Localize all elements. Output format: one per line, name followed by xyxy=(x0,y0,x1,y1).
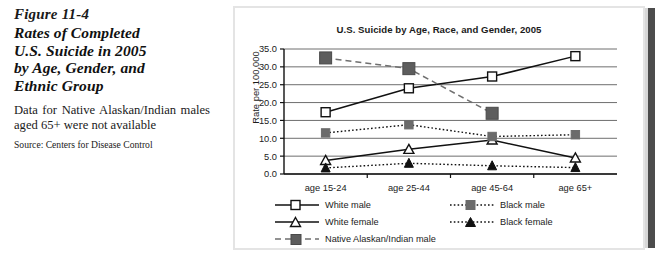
legend-swatch-white-female xyxy=(275,216,319,228)
legend-label-white-female: White female xyxy=(325,217,379,227)
data-point-marker xyxy=(405,121,413,129)
y-tick-label: 15.0 xyxy=(259,116,277,126)
figure-title-line-4: Ethnic Group xyxy=(14,77,210,95)
series-line xyxy=(326,56,576,112)
data-point-marker xyxy=(404,84,413,93)
data-point-marker xyxy=(488,72,497,81)
data-point-marker xyxy=(571,52,580,61)
y-tick-label: 35.0 xyxy=(259,44,277,54)
chart-legend: White male Black male White femal xyxy=(275,196,625,247)
legend-label-white-male: White male xyxy=(325,200,371,210)
x-tick-label: age 45-64 xyxy=(471,183,513,193)
legend-row-2: White female Black female xyxy=(275,213,625,230)
y-tick-label: 25.0 xyxy=(259,80,277,90)
data-point-marker xyxy=(486,107,498,119)
figure-page: Figure 11-4 Rates of Completed U.S. Suic… xyxy=(0,0,662,258)
data-point-marker xyxy=(571,163,580,172)
data-point-marker xyxy=(403,63,415,75)
data-point-marker xyxy=(571,131,579,139)
y-axis-ticks: 0.05.010.015.020.025.030.035.0 xyxy=(259,44,284,179)
x-axis-ticks: age 15-24age 25-44age 45-64age 65+ xyxy=(305,174,593,193)
x-tick-label: age 15-24 xyxy=(305,183,347,193)
series-lines xyxy=(326,56,576,168)
x-tick-label: age 25-44 xyxy=(388,183,430,193)
legend-item-white-male[interactable]: White male xyxy=(275,199,450,211)
data-point-marker xyxy=(321,108,330,117)
figure-title-line-3: by Age, Gender, and xyxy=(14,59,210,77)
legend-item-native-alaskan-indian-male[interactable]: Native Alaskan/Indian male xyxy=(275,233,436,245)
legend-swatch-native-alaskan-indian-male xyxy=(275,233,319,245)
data-point-marker xyxy=(321,129,329,137)
series-markers xyxy=(320,52,581,172)
y-tick-label: 30.0 xyxy=(259,62,277,72)
series-line xyxy=(326,125,576,137)
legend-swatch-black-male xyxy=(450,199,494,211)
figure-title-line-2: U.S. Suicide in 2005 xyxy=(14,42,210,60)
y-tick-label: 20.0 xyxy=(259,98,277,108)
figure-caption-block: Figure 11-4 Rates of Completed U.S. Suic… xyxy=(14,6,210,150)
legend-row-3: Native Alaskan/Indian male xyxy=(275,230,625,247)
figure-note: Data for Native Alaskan/Indian males age… xyxy=(14,103,210,134)
gridlines xyxy=(284,49,617,174)
figure-number: Figure 11-4 xyxy=(14,6,210,23)
series-line xyxy=(326,163,576,168)
figure-title: Rates of Completed U.S. Suicide in 2005 … xyxy=(14,24,210,94)
data-point-marker xyxy=(488,132,496,140)
legend-label-native-alaskan-indian-male: Native Alaskan/Indian male xyxy=(325,234,436,244)
series-line xyxy=(326,140,576,160)
legend-row-1: White male Black male xyxy=(275,196,625,213)
legend-item-white-female[interactable]: White female xyxy=(275,216,450,228)
legend-item-black-female[interactable]: Black female xyxy=(450,216,553,228)
x-tick-label: age 65+ xyxy=(558,183,592,193)
figure-source: Source: Centers for Disease Control xyxy=(14,139,210,150)
legend-label-black-male: Black male xyxy=(500,200,545,210)
legend-label-black-female: Black female xyxy=(500,217,553,227)
legend-swatch-black-female xyxy=(450,216,494,228)
legend-item-black-male[interactable]: Black male xyxy=(450,199,545,211)
legend-swatch-white-male xyxy=(275,199,319,211)
data-point-marker xyxy=(320,52,332,64)
y-tick-label: 10.0 xyxy=(259,134,277,144)
y-tick-label: 5.0 xyxy=(264,152,277,162)
panel-shadow xyxy=(648,8,655,248)
figure-title-line-1: Rates of Completed xyxy=(14,24,210,42)
chart-panel: U.S. Suicide by Age, Race, and Gender, 2… xyxy=(233,6,645,250)
y-tick-label: 0.0 xyxy=(264,169,277,179)
